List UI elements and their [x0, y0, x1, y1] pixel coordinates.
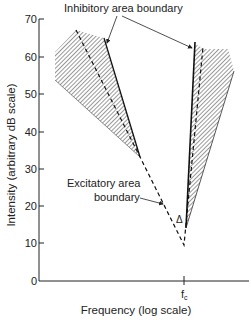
- excitatory-arrow: [140, 198, 163, 204]
- y-tick-10: 10: [25, 237, 37, 249]
- inhibitory-label: Inhibitory area boundary: [64, 2, 183, 14]
- delta-symbol: Δ: [176, 214, 183, 225]
- fc-label: fc: [181, 288, 188, 301]
- excitatory-label-line1: Excitatory area: [67, 177, 141, 189]
- y-tick-30: 30: [25, 163, 37, 175]
- y-tick-0: 0: [31, 275, 37, 287]
- left-inhibitory-area: [55, 30, 140, 157]
- y-tick-70: 70: [25, 13, 37, 25]
- y-tick-50: 50: [25, 88, 37, 100]
- y-axis-label: Intensity (arbitrary dB scale): [5, 83, 17, 226]
- y-tick-labels: 0 10 20 30 40 50 60 70: [25, 13, 37, 287]
- inhibitory-arrow-right: [122, 16, 192, 48]
- y-tick-60: 60: [25, 51, 37, 63]
- y-tick-40: 40: [25, 126, 37, 138]
- excitatory-label-line2: boundary: [94, 191, 140, 203]
- inhibitory-arrow-left: [107, 16, 117, 43]
- y-tick-20: 20: [25, 200, 37, 212]
- x-axis-label: Frequency (log scale): [81, 304, 192, 316]
- tuning-curve-diagram: 0 10 20 30 40 50 60 70 Intensity (arbitr…: [0, 0, 251, 322]
